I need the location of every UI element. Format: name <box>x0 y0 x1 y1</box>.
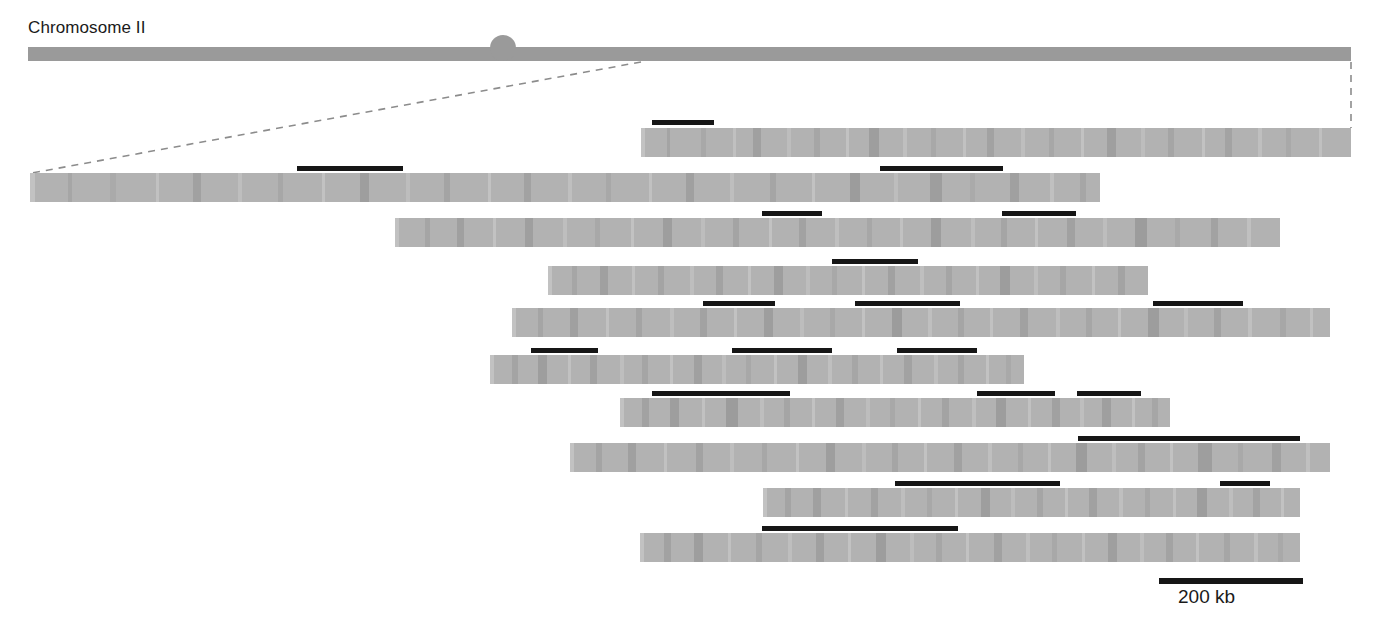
marker-bar <box>703 301 775 306</box>
contig-band <box>976 266 979 295</box>
contig-band <box>1112 443 1116 472</box>
contig-band <box>524 173 531 202</box>
contig-band <box>866 398 870 427</box>
contig-band <box>796 443 799 472</box>
contig-band <box>488 173 491 202</box>
contig-band <box>1141 128 1145 157</box>
contig-band <box>1197 488 1207 517</box>
marker-bar <box>732 348 832 353</box>
contig-band <box>1306 443 1310 472</box>
contig-band <box>904 355 912 384</box>
contig-band <box>642 398 649 427</box>
contig-band <box>958 355 964 384</box>
contig-band <box>1140 533 1144 562</box>
contig-band <box>1173 488 1176 517</box>
contig-band <box>572 266 577 295</box>
contig-band <box>322 173 325 202</box>
contig-band <box>728 533 731 562</box>
contig-bar <box>570 443 1330 472</box>
contig-band <box>813 488 821 517</box>
contig-band <box>733 218 739 247</box>
marker-bar <box>1078 436 1300 441</box>
contig-band <box>686 173 694 202</box>
centromere-marker <box>490 35 516 61</box>
contig-band <box>733 128 736 157</box>
contig-band <box>1103 218 1107 247</box>
contig-band <box>799 218 806 247</box>
contig-band <box>1175 218 1180 247</box>
marker-bar <box>1077 391 1141 396</box>
marker-bar <box>1153 301 1243 306</box>
marker-bar <box>531 348 598 353</box>
contig-band <box>1065 488 1068 517</box>
contig-band <box>716 266 723 295</box>
contig-band <box>620 355 624 384</box>
contig-band <box>894 173 898 202</box>
contig-band <box>658 266 664 295</box>
contig-band <box>663 218 672 247</box>
contig-bar <box>395 218 1280 247</box>
contig-band <box>1135 218 1147 247</box>
contig-band <box>1118 266 1125 295</box>
contig-band <box>701 128 706 157</box>
contig-band <box>702 398 705 427</box>
contig-band <box>900 218 903 247</box>
contig-band <box>1119 488 1123 517</box>
contig-band <box>1107 128 1116 157</box>
contig-band <box>1138 443 1145 472</box>
contig-band <box>1037 488 1043 517</box>
contig-band <box>1211 218 1218 247</box>
contig-band <box>871 488 878 517</box>
contig-band <box>600 266 608 295</box>
contig-band <box>620 398 624 427</box>
contig-band <box>1102 398 1111 427</box>
contig-bar <box>30 173 1100 202</box>
contig-bar <box>640 533 1300 562</box>
contig-band <box>457 218 464 247</box>
scale-bar-label: 200 kb <box>1178 586 1235 608</box>
contig-band <box>1034 266 1038 295</box>
contig-band <box>1056 308 1060 337</box>
contig-band <box>734 308 737 337</box>
contig-band <box>1168 128 1174 157</box>
contig-band <box>570 443 574 472</box>
contig-band <box>862 308 865 337</box>
contig-band <box>525 218 533 247</box>
contig-band <box>590 355 597 384</box>
contig-band <box>946 266 952 295</box>
contig-band <box>1092 266 1095 295</box>
contig-band <box>1214 308 1221 337</box>
contig-band <box>762 443 767 472</box>
contig-band <box>1202 128 1205 157</box>
marker-bar <box>652 120 714 125</box>
contig-band <box>512 355 518 384</box>
contig-band <box>595 218 600 247</box>
contig-band <box>68 173 72 202</box>
contig-band <box>1254 533 1258 562</box>
contig-band <box>966 533 969 562</box>
contig-band <box>930 173 942 202</box>
contig-band <box>1048 443 1051 472</box>
contig-band <box>972 398 976 427</box>
contig-band <box>110 173 116 202</box>
marker-bar <box>832 259 918 264</box>
contig-band <box>1152 398 1158 427</box>
contig-band <box>722 355 726 384</box>
contig-band <box>156 173 159 202</box>
contig-band <box>1026 533 1030 562</box>
contig-band <box>193 173 201 202</box>
contig-band <box>1035 218 1038 247</box>
contig-band <box>888 266 895 295</box>
contig-band <box>753 128 761 157</box>
contig-band <box>769 218 772 247</box>
marker-bar <box>652 391 790 396</box>
contig-band <box>1010 173 1019 202</box>
contig-band <box>1080 173 1086 202</box>
contig-band <box>694 533 703 562</box>
contig-band <box>30 173 35 202</box>
contig-band <box>798 355 807 384</box>
contig-band <box>876 533 886 562</box>
scale-bar-line <box>1159 578 1303 584</box>
contig-band <box>1258 128 1262 157</box>
contig-band <box>570 308 578 337</box>
